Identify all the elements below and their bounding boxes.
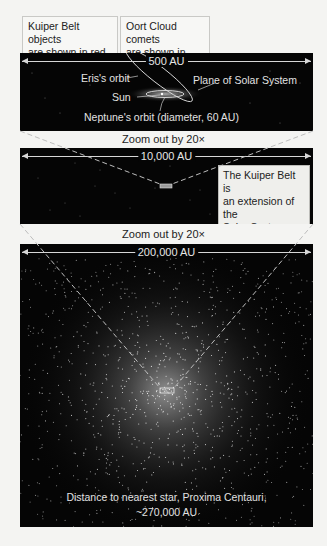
inner-marker xyxy=(20,244,313,527)
neptune-orbit xyxy=(146,91,184,98)
kuiper-note-box: The Kuiper Belt is an extension of the S… xyxy=(218,165,310,224)
panel-500au: 500 AU Eris's orbit Plane of Solar Syste… xyxy=(20,53,313,131)
inner-solar-box xyxy=(160,388,174,393)
panel-10000au: 10,000 AU The Kuiper Belt is an extensio… xyxy=(20,148,313,224)
scale-bar-10000au: 10,000 AU xyxy=(22,150,311,162)
scale-label: 500 AU xyxy=(145,55,187,67)
scale-bar-500au: 500 AU xyxy=(22,55,311,67)
zoom-label-1: Zoom out by 20× xyxy=(0,133,327,145)
sun-dot xyxy=(161,93,163,95)
kuiper-note-line1: The Kuiper Belt is xyxy=(223,169,305,195)
panel-200000au: 200,000 AU Distance to nearest star, Pro… xyxy=(20,244,313,527)
oort-legend-line1: Oort Cloud comets xyxy=(126,20,204,46)
proxima-line1: Distance to nearest star, Proxima Centau… xyxy=(20,490,313,505)
zoom-label-2: Zoom out by 20× xyxy=(0,228,327,240)
plane-label: Plane of Solar System xyxy=(193,74,297,86)
eris-orbit-label: Eris's orbit xyxy=(81,72,130,84)
kuiper-oort-figure: Kuiper Belt objects are shown in red. Oo… xyxy=(0,0,327,546)
solar-system-glow xyxy=(127,86,203,102)
figure-caption-cutoff xyxy=(20,532,313,546)
kuiper-note-line3: Solar System disk. xyxy=(223,221,305,224)
proxima-line2: ~270,000 AU xyxy=(20,505,313,520)
scale-label: 10,000 AU xyxy=(138,150,195,162)
oort-cloud-particles xyxy=(20,244,313,527)
scale-label: 200,000 AU xyxy=(135,246,199,258)
scale-bar-200000au: 200,000 AU xyxy=(22,246,311,258)
kuiper-note-line2: an extension of the xyxy=(223,195,305,221)
kuiper-box xyxy=(160,184,172,188)
proxima-distance-text: Distance to nearest star, Proxima Centau… xyxy=(20,490,313,520)
sun-label: Sun xyxy=(112,91,131,103)
neptune-orbit-label: Neptune's orbit (diameter, 60 AU) xyxy=(84,111,239,123)
kuiper-legend-line1: Kuiper Belt objects xyxy=(28,20,112,46)
